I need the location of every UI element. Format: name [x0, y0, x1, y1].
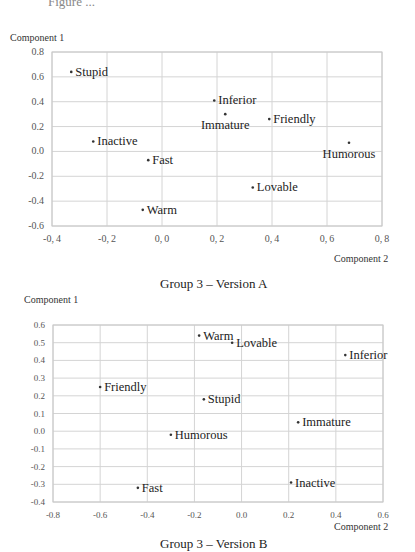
- x-tick-label: 0.0: [236, 510, 248, 520]
- data-point-marker: [290, 481, 293, 484]
- y-tick-label: -0.3: [31, 479, 46, 489]
- data-point-label: Stupid: [208, 392, 241, 406]
- chart-b-x-axis-title: Component 2: [334, 521, 388, 532]
- data-point-label: Warm: [203, 329, 234, 343]
- data-point-marker: [137, 487, 140, 490]
- x-tick-label: -0.8: [46, 510, 61, 520]
- data-point-label: Fast: [142, 481, 163, 495]
- x-tick-label: -0.4: [140, 510, 155, 520]
- data-point-label: Inactive: [295, 476, 336, 490]
- y-tick-label: 0.2: [34, 391, 45, 401]
- chart-b-caption: Group 3 – Version B: [160, 536, 267, 552]
- data-point-label: Lovable: [236, 336, 277, 350]
- x-tick-label: -0.6: [93, 510, 108, 520]
- y-tick-label: 0.1: [34, 409, 45, 419]
- y-tick-label: -0.2: [31, 462, 45, 472]
- data-point-marker: [198, 334, 201, 337]
- data-point-label: Friendly: [104, 380, 147, 394]
- data-point-marker: [231, 341, 234, 344]
- y-tick-label: 0.4: [34, 355, 46, 365]
- y-tick-label: 0.3: [34, 373, 46, 383]
- data-point-marker: [297, 421, 300, 424]
- data-point-marker: [99, 386, 102, 389]
- data-point-marker: [170, 433, 173, 436]
- data-point-label: Immature: [302, 415, 351, 429]
- y-tick-label: -0.1: [31, 444, 45, 454]
- x-tick-label: -0.2: [187, 510, 201, 520]
- x-tick-label: 0.2: [283, 510, 294, 520]
- y-tick-label: 0.0: [34, 426, 46, 436]
- y-tick-label: 0.6: [34, 320, 46, 330]
- data-point-marker: [344, 354, 347, 357]
- data-point-marker: [203, 398, 206, 401]
- data-point-label: Inferior: [349, 348, 388, 362]
- x-tick-label: 0.4: [330, 510, 342, 520]
- y-tick-label: -0.4: [31, 497, 46, 507]
- y-tick-label: 0.5: [34, 338, 46, 348]
- data-point-label: Humorous: [175, 428, 228, 442]
- x-tick-label: 0.6: [377, 510, 389, 520]
